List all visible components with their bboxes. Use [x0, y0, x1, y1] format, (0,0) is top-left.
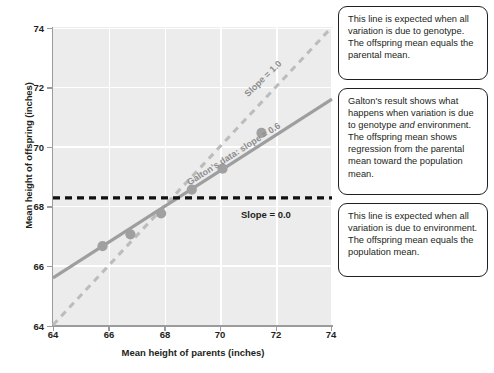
x-tick-label: 68 [160, 329, 171, 340]
environment-callout-text: This line is expected when all variation… [348, 211, 477, 257]
y-tick-mark [47, 147, 53, 149]
figure-canvas: Mean height of offspring (inches) Mean h… [0, 0, 494, 373]
x-tick-label: 66 [104, 329, 115, 340]
x-tick-label: 74 [326, 329, 337, 340]
data-point [125, 229, 135, 239]
y-tick-label: 64 [22, 320, 44, 331]
y-tick-mark [47, 206, 53, 208]
x-axis-line [52, 325, 333, 327]
y-tick-label: 68 [22, 201, 44, 212]
galton-result-callout: Galton's result shows what happens when … [338, 88, 488, 195]
y-tick-label: 72 [22, 82, 44, 93]
galton-regression-chart: Mean height of offspring (inches) Mean h… [0, 0, 340, 373]
environment-callout: This line is expected when all variation… [338, 203, 488, 277]
y-tick-label: 70 [22, 141, 44, 152]
y-tick-label: 66 [22, 260, 44, 271]
x-axis-title: Mean height of parents (inches) [53, 347, 333, 358]
y-tick-mark [47, 28, 53, 30]
data-point [97, 241, 107, 251]
y-tick-label: 74 [22, 22, 44, 33]
x-tick-label: 70 [215, 329, 226, 340]
plot-area: Slope = 1.0 Galton's data: slope = 0.6 S… [53, 27, 332, 325]
x-tick-label: 64 [48, 329, 59, 340]
genotype-callout: This line is expected when all variation… [338, 6, 488, 80]
y-tick-mark [47, 266, 53, 268]
data-point [156, 208, 166, 218]
galton-callout-text-italic: and [399, 120, 415, 130]
x-tick-label: 72 [271, 329, 282, 340]
slope-zero-label: Slope = 0.0 [241, 209, 291, 220]
genotype-callout-text: This line is expected when all variation… [348, 14, 473, 60]
y-tick-mark [47, 87, 53, 89]
